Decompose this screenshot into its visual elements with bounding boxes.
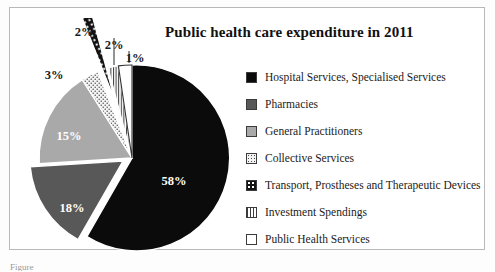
legend-item-hospital-services: Hospital Services, Specialised Services: [246, 64, 495, 91]
legend-swatch-general-practitioners: [246, 126, 257, 137]
pie-chart: 58% 18% 15% 3% 2% 2% 1%: [22, 18, 237, 253]
legend-item-investment-spendings: Investment Spendings: [246, 199, 495, 226]
legend-item-transport: Transport, Prostheses and Therapeutic De…: [246, 172, 495, 199]
legend-swatch-collective-services: [246, 153, 257, 164]
pie-label-investment-spendings: 2%: [105, 38, 124, 52]
legend-label-collective-services: Collective Services: [265, 152, 354, 165]
pie-label-transport: 2%: [75, 25, 94, 39]
pie-label-general-practitioners: 15%: [57, 129, 82, 143]
pie-label-pharmacies: 18%: [60, 201, 85, 215]
pie-label-public-health-services: 1%: [126, 51, 145, 65]
legend-label-investment-spendings: Investment Spendings: [265, 206, 367, 219]
legend-label-general-practitioners: General Practitioners: [265, 125, 362, 138]
legend-item-general-practitioners: General Practitioners: [246, 118, 495, 145]
figure-caption: Figure: [10, 262, 190, 271]
legend-swatch-hospital-services: [246, 72, 257, 83]
legend-swatch-transport: [246, 180, 257, 191]
figure-root: Public health care expenditure in 2011: [0, 0, 495, 272]
legend-item-public-health-services: Public Health Services: [246, 226, 495, 253]
legend-label-pharmacies: Pharmacies: [265, 98, 318, 111]
legend-swatch-pharmacies: [246, 99, 257, 110]
chart-legend: Hospital Services, Specialised Services …: [246, 64, 495, 253]
legend-label-transport: Transport, Prostheses and Therapeutic De…: [265, 179, 481, 192]
chart-frame: Public health care expenditure in 2011: [9, 7, 485, 250]
pie-svg: 58% 18% 15% 3% 2% 2% 1%: [22, 18, 237, 253]
pie-label-collective-services: 3%: [45, 68, 64, 82]
legend-label-public-health-services: Public Health Services: [265, 233, 370, 246]
legend-item-collective-services: Collective Services: [246, 145, 495, 172]
legend-item-pharmacies: Pharmacies: [246, 91, 495, 118]
legend-swatch-public-health-services: [246, 234, 257, 245]
legend-swatch-investment-spendings: [246, 207, 257, 218]
pie-label-hospital-services: 58%: [162, 174, 187, 188]
legend-label-hospital-services: Hospital Services, Specialised Services: [265, 71, 446, 84]
